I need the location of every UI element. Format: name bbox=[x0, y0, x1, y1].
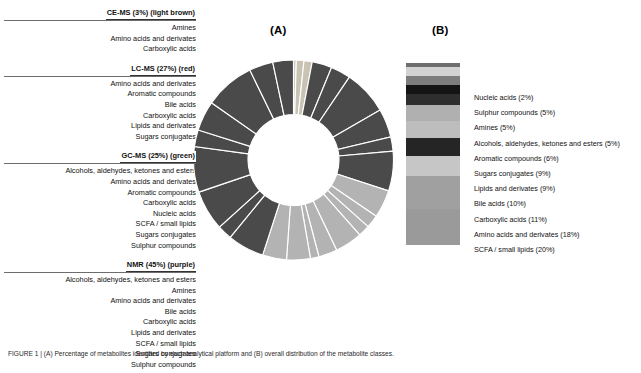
platform-header: CE-MS (3%) (light brown) bbox=[0, 8, 196, 21]
platform-item: Carboxylic acids bbox=[0, 317, 196, 328]
legend-item: Aromatic compounds (6%) bbox=[474, 154, 639, 164]
platform-item: Sugars conjugates bbox=[0, 230, 196, 241]
platform-header: LC-MS (27%) (red) bbox=[0, 64, 196, 77]
legend-item: Carboxylic acids (11%) bbox=[474, 215, 639, 225]
platform-item: Lipids and derivates bbox=[0, 121, 196, 132]
platform-item: Amines bbox=[0, 286, 196, 297]
platform-item: Carboxylic acids bbox=[0, 44, 196, 55]
platform-item: Bile acids bbox=[0, 100, 196, 111]
stacked-bar-b bbox=[406, 63, 460, 245]
bar-segment bbox=[406, 105, 460, 121]
platform-item: Amino acids and derivates bbox=[0, 177, 196, 188]
platform-header-label: NMR (45%) (purple) bbox=[126, 260, 196, 272]
donut-chart-a bbox=[192, 57, 395, 263]
platform-item: Amino acids and derivates bbox=[0, 296, 196, 307]
platform-item: Sulphur compounds bbox=[0, 241, 196, 252]
platform-item: Alcohols, aldehydes, ketones and esters bbox=[0, 166, 196, 177]
legend-item: Lipids and derivates (9%) bbox=[474, 184, 639, 194]
platform-item: Lipids and derivates bbox=[0, 328, 196, 339]
panel-label-b: (B) bbox=[432, 24, 449, 36]
platform-item: Amino acids and derivates bbox=[0, 34, 196, 45]
legend-item: Bile acids (10%) bbox=[474, 199, 639, 209]
platform-item: SCFA / small lipids bbox=[0, 219, 196, 230]
platform-header-label: LC-MS (27%) (red) bbox=[130, 64, 196, 76]
platform-header-rule bbox=[4, 76, 196, 77]
platform-header-rule bbox=[4, 163, 196, 164]
platform-item: Amines bbox=[0, 23, 196, 34]
platform-header-rule bbox=[4, 20, 196, 21]
platform-header: GC-MS (25%) (green) bbox=[0, 151, 196, 164]
donut-svg bbox=[192, 57, 395, 263]
bar-segment bbox=[406, 121, 460, 137]
platform-header-label: CE-MS (3%) (light brown) bbox=[106, 8, 196, 20]
legend-item: Alcohols, aldehydes, ketones and esters … bbox=[474, 139, 639, 149]
platform-item: Amino acids and derivates bbox=[0, 79, 196, 90]
bar-segment bbox=[406, 156, 460, 176]
platform-group-gc-ms: GC-MS (25%) (green)Alcohols, aldehydes, … bbox=[0, 151, 196, 251]
platform-item: Carboxylic acids bbox=[0, 111, 196, 122]
bar-segment bbox=[406, 138, 460, 156]
platform-header: NMR (45%) (purple) bbox=[0, 260, 196, 273]
legend-item: Sugars conjugates (9%) bbox=[474, 169, 639, 179]
bar-segment bbox=[406, 94, 460, 105]
bar-segment bbox=[406, 76, 460, 85]
platform-list: CE-MS (3%) (light brown)AminesAmino acid… bbox=[0, 8, 196, 373]
bar-segment bbox=[406, 67, 460, 76]
platform-group-ce-ms: CE-MS (3%) (light brown)AminesAmino acid… bbox=[0, 8, 196, 55]
platform-header-rule bbox=[4, 272, 196, 273]
bar-segment bbox=[406, 176, 460, 209]
platform-item: Nucleic acids bbox=[0, 209, 196, 220]
figure-caption: FIGURE 1 | (A) Percentage of metabolites… bbox=[8, 350, 636, 358]
platform-item: Carboxylic acids bbox=[0, 198, 196, 209]
platform-item: Bile acids bbox=[0, 307, 196, 318]
platform-group-lc-ms: LC-MS (27%) (red)Amino acids and derivat… bbox=[0, 64, 196, 143]
platform-item: Sulphur compounds bbox=[0, 360, 196, 371]
platform-item: SCFA / small lipids bbox=[0, 339, 196, 350]
panel-label-a: (A) bbox=[270, 24, 287, 36]
bar-segment bbox=[406, 85, 460, 94]
platform-item: Aromatic compounds bbox=[0, 188, 196, 199]
bar-segment bbox=[406, 209, 460, 245]
legend-item: Amino acids and derivates (18%) bbox=[474, 230, 639, 240]
legend-item: Nucleic acids (2%) bbox=[474, 93, 639, 103]
platform-item: Alcohols, aldehydes, ketones and esters bbox=[0, 275, 196, 286]
legend-item: Amines (5%) bbox=[474, 123, 639, 133]
legend-b: Nucleic acids (2%)Sulphur compounds (5%)… bbox=[474, 93, 639, 260]
platform-header-label: GC-MS (25%) (green) bbox=[120, 151, 196, 163]
platform-item: Aromatic compounds bbox=[0, 89, 196, 100]
platform-item: Sugars conjugates bbox=[0, 132, 196, 143]
legend-item: SCFA / small lipids (20%) bbox=[474, 245, 639, 255]
legend-item: Sulphur compounds (5%) bbox=[474, 108, 639, 118]
